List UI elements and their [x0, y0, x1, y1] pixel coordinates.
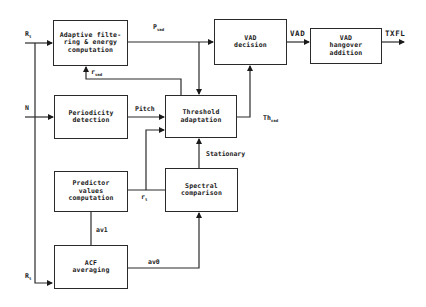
block-label: Adaptive filte- ring & energy computatio… — [60, 32, 122, 55]
signal-label-rvad: rvad — [91, 69, 102, 78]
block-vad-hangover: VAD hangover addition — [310, 28, 382, 64]
block-label: Periodicity detection — [68, 110, 113, 125]
input-label-rt-top: Rt — [25, 31, 31, 40]
wire-rt-to-threshold — [146, 130, 164, 190]
block-label: Spectral comparison — [181, 183, 222, 198]
input-label-n: N — [25, 105, 29, 112]
wire-thvad — [237, 66, 250, 117]
block-label: VAD decision — [234, 35, 267, 50]
block-adaptive-filtering: Adaptive filte- ring & energy computatio… — [53, 20, 128, 66]
signal-label-rt: rt — [141, 194, 147, 203]
signal-label-txfl: TXFL — [385, 30, 405, 37]
wire-rt-to-acf — [35, 43, 52, 283]
signal-label-pitch: Pitch — [135, 106, 155, 113]
block-label: ACF averaging — [72, 260, 109, 275]
block-acf-averaging: ACF averaging — [54, 245, 128, 289]
block-periodicity-detection: Periodicity detection — [54, 95, 128, 139]
wire-av0 — [128, 213, 199, 268]
signal-label-vad: VAD — [290, 30, 305, 37]
input-label-rt-bottom: Rt — [25, 273, 31, 282]
block-label: VAD hangover addition — [330, 35, 363, 58]
signal-label-pvad: Pvad — [153, 24, 164, 33]
block-predictor-values: Predictor values computation — [54, 171, 128, 212]
block-spectral-comparison: Spectral comparison — [165, 168, 238, 212]
signal-label-av0: av0 — [148, 259, 160, 266]
block-label: Threshold adaptation — [180, 109, 221, 124]
signal-label-av1: av1 — [96, 227, 108, 234]
signal-label-stationary: Stationary — [206, 151, 245, 158]
block-label: Predictor values computation — [68, 180, 113, 203]
block-vad-decision: VAD decision — [214, 19, 287, 65]
signal-label-thvad: Thvad — [263, 115, 278, 124]
block-threshold-adaptation: Threshold adaptation — [165, 95, 237, 138]
